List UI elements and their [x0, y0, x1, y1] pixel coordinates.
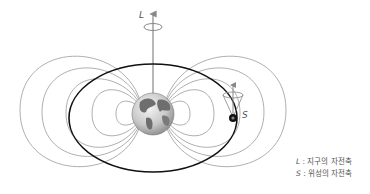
legend: L : 지구의 자전축 S : 위성의 자전축 — [296, 156, 352, 180]
satellite-axis-label: S — [242, 110, 248, 120]
legend-item-satellite-axis: S : 위성의 자전축 — [296, 168, 352, 180]
legend-item-earth-axis: L : 지구의 자전축 — [296, 156, 352, 168]
earth-axis-label: L — [139, 10, 144, 20]
earth-globe — [132, 93, 174, 135]
field-lines-right — [166, 56, 286, 167]
field-lines-left — [20, 56, 140, 167]
